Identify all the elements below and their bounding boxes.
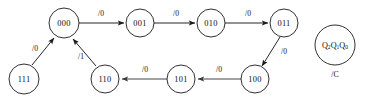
edge-100-to-101: /0 [198,65,241,79]
legend-output-label: /C [331,70,338,79]
edge-line [73,39,96,66]
state-label: 100 [248,75,261,84]
edge-line [262,37,280,66]
edge-110-to-000: /1 [73,39,96,66]
state-label: 110 [98,75,111,84]
edge-label-100-101: /0 [216,65,222,74]
edge-011-to-100: /0 [262,37,287,66]
edge-label-010-011: /0 [245,9,251,18]
state-node-111[interactable]: 111 [9,64,39,94]
edge-label-111-000: /0 [32,44,38,53]
state-node-010[interactable]: 010 [197,9,225,37]
edge-000-to-001: /0 [79,9,124,23]
state-node-110[interactable]: 110 [91,65,119,93]
state-label: 101 [174,75,187,84]
state-label: 000 [57,19,70,28]
edge-111-to-000: /0 [32,38,54,65]
state-diagram-canvas: /0 /0 /0 /0 /0 /0 /1 [0,0,370,104]
state-node-001[interactable]: 001 [126,9,154,37]
state-node-011[interactable]: 011 [270,9,298,37]
legend-key-node: Q2Q1Q0 /C [315,25,355,79]
state-node-101[interactable]: 101 [167,65,195,93]
state-label: 001 [133,19,146,28]
legend-q-sub-0: 0 [345,44,348,50]
edge-101-to-110: /0 [122,65,167,79]
state-node-100[interactable]: 100 [241,65,269,93]
edge-label-101-110: /0 [142,65,148,74]
legend-state-encoding: Q2Q1Q0 [322,40,348,50]
edge-label-000-001: /0 [98,9,104,18]
edge-label-110-000: /1 [78,52,84,61]
state-diagram-svg: /0 /0 /0 /0 /0 /0 /1 [0,0,370,104]
edge-001-to-010: /0 [154,9,195,23]
edge-label-001-010: /0 [173,9,179,18]
state-node-000[interactable]: 000 [49,8,79,38]
edge-010-to-011: /0 [225,9,268,23]
state-label: 111 [18,75,31,84]
state-label: 011 [277,19,290,28]
state-label: 010 [204,19,217,28]
edge-label-011-100: /0 [281,47,287,56]
